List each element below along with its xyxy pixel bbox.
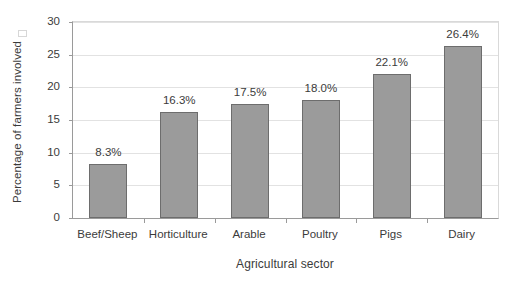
x-axis-category-label: Beef/Sheep — [77, 228, 137, 240]
bar-value-label: 8.3% — [95, 146, 121, 158]
y-axis-tick-labels: 051015202530 — [28, 21, 66, 217]
y-axis-tick-mark — [69, 87, 73, 88]
x-axis-tick-mark — [215, 218, 216, 223]
bar-value-label: 17.5% — [234, 86, 267, 98]
bar-value-label: 26.4% — [446, 28, 479, 40]
y-axis-tick-mark — [69, 55, 73, 56]
bar — [373, 74, 411, 218]
bar — [302, 100, 340, 218]
x-axis-category-label: Arable — [232, 228, 265, 240]
gridline — [73, 87, 498, 88]
y-axis-tick-label: 30 — [28, 15, 66, 27]
gridline — [73, 120, 498, 121]
x-axis-tick-mark — [286, 218, 287, 223]
y-axis-tick-label: 5 — [28, 178, 66, 190]
gridline — [73, 185, 498, 186]
gridline — [73, 153, 498, 154]
bar-value-label: 16.3% — [163, 94, 196, 106]
y-axis-tick-label: 20 — [28, 80, 66, 92]
x-axis-tick-mark — [356, 218, 357, 223]
x-axis-category-label: Pigs — [380, 228, 402, 240]
bar — [160, 112, 198, 218]
y-axis-tick-mark — [69, 218, 73, 219]
bar-value-label: 22.1% — [375, 56, 408, 68]
x-axis-tick-mark — [144, 218, 145, 223]
y-axis-tick-label: 15 — [28, 113, 66, 125]
bar-value-label: 18.0% — [305, 82, 338, 94]
x-axis-title: Agricultural sector — [72, 257, 498, 271]
bar — [89, 164, 127, 218]
y-axis-tick-label: 10 — [28, 146, 66, 158]
x-axis-category-label: Poultry — [302, 228, 338, 240]
bar — [231, 104, 269, 218]
y-axis-tick-mark — [69, 185, 73, 186]
gridline — [73, 55, 498, 56]
x-axis-category-label: Horticulture — [149, 228, 208, 240]
x-axis-tick-mark — [427, 218, 428, 223]
y-axis-tick-mark — [69, 22, 73, 23]
bar-chart: Percentage of farmers involved 051015202… — [0, 0, 526, 281]
y-axis-tick-mark — [69, 153, 73, 154]
plot-area: 8.3%16.3%17.5%18.0%22.1%26.4% — [72, 21, 499, 219]
x-axis-category-label: Dairy — [448, 228, 475, 240]
gridline — [73, 22, 498, 23]
y-axis-tick-label: 25 — [28, 48, 66, 60]
y-axis-tick-label: 0 — [28, 211, 66, 223]
y-axis-tick-mark — [69, 120, 73, 121]
bar — [444, 46, 482, 218]
